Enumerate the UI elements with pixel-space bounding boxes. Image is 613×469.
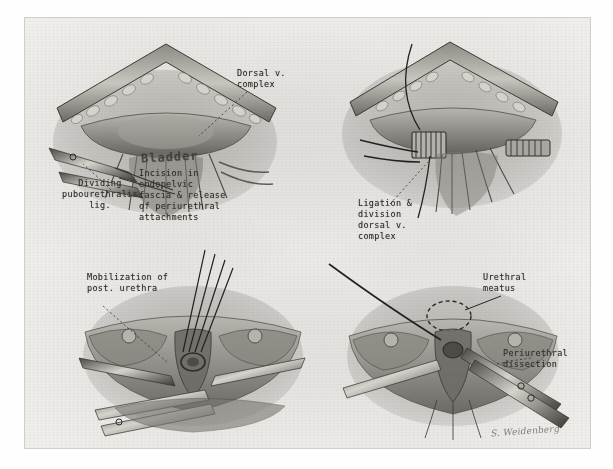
panel-top-right: Ligation & division dorsal v. complex (300, 22, 582, 237)
label-ligation-division-dorsal-v-complex: Ligation & division dorsal v. complex (358, 198, 412, 242)
panel-bottom-right: Urethral meatus Periurethral dissection … (325, 240, 587, 445)
label-dorsal-v-complex: Dorsal v. complex (237, 68, 286, 90)
panel-top-left: Dorsal v. complex Bladder Dividing pubou… (33, 22, 298, 237)
panel-bottom-left: Mobilization of post. urethra (55, 240, 323, 440)
panel-bottom-left-artwork (55, 240, 323, 440)
ligature-band-right (506, 140, 550, 156)
illustration-plate-stage: Dorsal v. complex Bladder Dividing pubou… (0, 0, 613, 469)
label-mobilization-post-urethra: Mobilization of post. urethra (87, 272, 168, 294)
scanned-illustration-plate: Dorsal v. complex Bladder Dividing pubou… (25, 18, 590, 448)
label-periurethral-dissection: Periurethral dissection (503, 348, 568, 370)
label-incision-endopelvic-fascia: Incision in endopelvic fascia & release … (139, 168, 226, 223)
panel-bottom-right-artwork (325, 240, 587, 445)
panel-top-right-artwork (300, 22, 582, 237)
label-urethral-meatus: Urethral meatus (483, 272, 526, 294)
label-bladder: Bladder (141, 149, 199, 166)
